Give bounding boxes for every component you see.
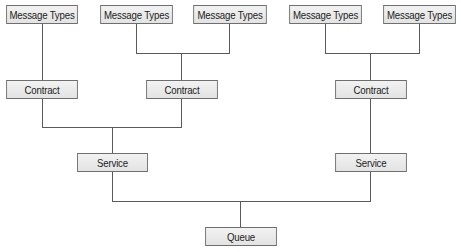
service-node-1: Service bbox=[77, 153, 148, 172]
contract-node-2: Contract bbox=[146, 80, 218, 99]
connector-lines bbox=[0, 0, 461, 252]
message-types-node-4: Message Types bbox=[289, 5, 362, 24]
contract-node-3: Contract bbox=[335, 80, 407, 99]
queue-node: Queue bbox=[205, 227, 277, 246]
message-types-node-1: Message Types bbox=[6, 5, 78, 24]
diagram-canvas: Message Types Message Types Message Type… bbox=[0, 0, 461, 252]
contract-node-1: Contract bbox=[6, 80, 78, 99]
message-types-node-2: Message Types bbox=[100, 5, 173, 24]
service-node-2: Service bbox=[335, 153, 407, 172]
message-types-node-3: Message Types bbox=[193, 5, 267, 24]
message-types-node-5: Message Types bbox=[383, 5, 456, 24]
